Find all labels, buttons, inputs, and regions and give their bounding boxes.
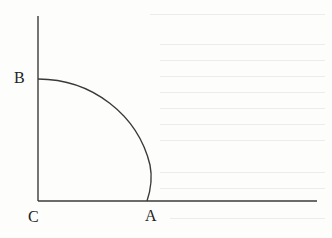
geometry-figure: [0, 0, 332, 238]
point-label-a: A: [145, 208, 157, 224]
arc-b-to-a: [38, 79, 151, 201]
diagram-canvas: B C A: [0, 0, 332, 238]
point-label-b: B: [14, 70, 25, 86]
point-label-c: C: [28, 209, 39, 225]
